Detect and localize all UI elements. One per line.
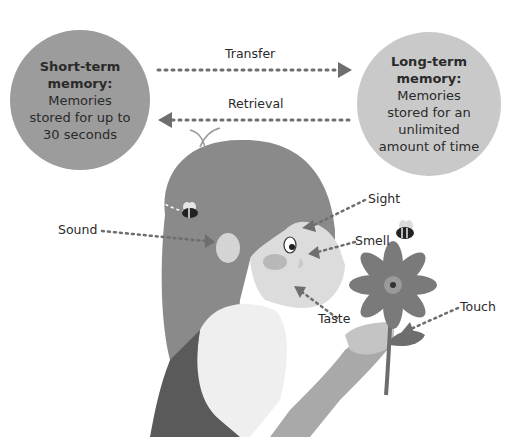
short-term-title-1: Short-term xyxy=(40,58,121,75)
long-term-title-1: Long-term xyxy=(391,53,467,70)
bee-icon xyxy=(396,220,414,239)
ear xyxy=(216,233,240,263)
long-term-desc-3: unlimited xyxy=(398,121,459,138)
long-term-title-2: memory: xyxy=(397,70,462,87)
touch-label: Touch xyxy=(460,299,496,314)
flower xyxy=(349,241,437,329)
transfer-arrow xyxy=(158,62,352,78)
smell-label: Smell xyxy=(355,233,390,248)
long-term-desc-4: amount of time xyxy=(379,138,479,155)
retrieval-arrow xyxy=(158,112,352,128)
long-term-desc-1: Memories xyxy=(397,87,461,104)
long-term-memory-circle: Long-term memory: Memories stored for an… xyxy=(357,32,501,176)
short-term-desc-1: Memories xyxy=(48,92,112,109)
short-term-memory-circle: Short-term memory: Memories stored for u… xyxy=(10,30,150,170)
short-term-desc-3: 30 seconds xyxy=(43,126,117,143)
sound-label: Sound xyxy=(58,222,97,237)
long-term-desc-2: stored for an xyxy=(387,104,470,121)
transfer-label: Transfer xyxy=(225,46,275,61)
retrieval-label: Retrieval xyxy=(228,96,284,111)
short-term-title-2: memory: xyxy=(48,75,113,92)
short-term-desc-2: stored for up to xyxy=(30,109,131,126)
taste-label: Taste xyxy=(318,311,350,326)
sight-label: Sight xyxy=(368,191,400,206)
